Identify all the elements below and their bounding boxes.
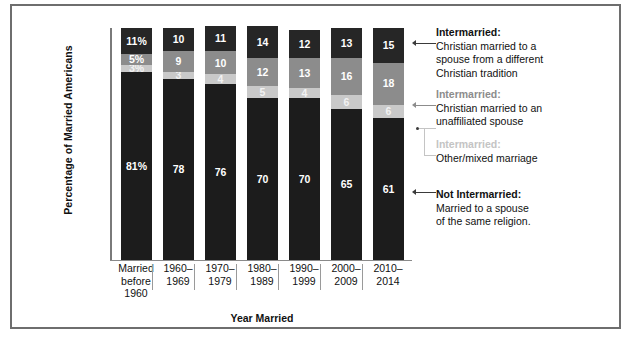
x-axis-line (110, 260, 412, 261)
x-tick-line: 1960 (115, 287, 157, 300)
bar-segment-label: 11 (215, 33, 226, 44)
legend-leader-2 (416, 105, 436, 106)
bar-segment-label: 6 (386, 106, 392, 117)
legend-item-title: Intermarried: (436, 26, 616, 40)
bar-segment-label: 3% (129, 65, 144, 72)
bar-segment-label: 3 (176, 72, 182, 79)
legend-arrow-4 (412, 189, 416, 195)
legend-leader-3d (419, 128, 425, 129)
bar-segment: 14 (247, 26, 278, 58)
legend-arrow-2 (412, 102, 416, 108)
legend-item-3: Intermarried:Other/mixed marriage (436, 138, 616, 165)
bar-segment-label: 81% (126, 161, 147, 172)
bar-segment-label: 65 (341, 179, 353, 190)
x-tick-7: 2010–2014 (367, 262, 409, 287)
bar-segment: 12 (247, 58, 278, 86)
x-tick-2: 1960–1969 (157, 262, 199, 287)
bar-2: 109378 (163, 28, 194, 260)
legend-item-line: Christian married to an (436, 102, 616, 116)
bar-segment: 15 (373, 28, 404, 63)
x-tick-line: 1970– (199, 262, 241, 275)
bar-segment-label: 61 (383, 184, 395, 195)
legend-item-line: unaffiliated spouse (436, 115, 616, 129)
legend-leader-1 (416, 43, 436, 44)
x-tick-separator (278, 264, 279, 290)
bar-segment-label: 15 (383, 40, 395, 51)
x-tick-1: Marriedbefore1960 (115, 262, 157, 300)
bar-segment: 61 (373, 118, 404, 260)
bar-4: 1412570 (247, 26, 278, 260)
bar-segment-label: 14 (257, 37, 269, 48)
x-tick-line: 1999 (283, 275, 325, 288)
plot-area: 11%5%3%81%109378111047614125701213470131… (110, 28, 410, 260)
legend-leader-3c (424, 155, 436, 156)
bar-segment: 70 (247, 98, 278, 260)
x-tick-separator (320, 264, 321, 290)
legend-leader-3a (424, 128, 436, 129)
bar-segment-label: 78 (173, 164, 185, 175)
bar-segment: 16 (331, 58, 362, 95)
bar-segment: 11% (121, 28, 152, 54)
legend-item-4: Not Intermarried:Married to a spouseof t… (436, 188, 616, 229)
bar-segment: 4 (205, 74, 236, 83)
x-tick-separator (152, 264, 153, 290)
bar-segment: 3% (121, 65, 152, 72)
bar-segment-label: 13 (299, 68, 311, 79)
x-tick-line: 2000– (325, 262, 367, 275)
x-tick-line: 1990– (283, 262, 325, 275)
legend-leader-4 (416, 192, 436, 193)
bar-6: 1316665 (331, 28, 362, 260)
x-tick-line: 2010– (367, 262, 409, 275)
bar-segment: 9 (163, 51, 194, 72)
x-tick-line: Married (115, 262, 157, 275)
x-tick-separator (194, 264, 195, 290)
bar-segment-label: 10 (215, 58, 227, 69)
x-tick-separator (236, 264, 237, 290)
bar-segment: 12 (289, 30, 320, 58)
bar-segment: 10 (163, 28, 194, 51)
bar-3: 1110476 (205, 26, 236, 260)
bar-1: 11%5%3%81% (121, 28, 152, 260)
y-axis-title: Percentage of Married Americans (62, 30, 74, 230)
bar-segment-label: 70 (299, 174, 311, 185)
x-tick-line: 1980– (241, 262, 283, 275)
bar-segment: 13 (289, 58, 320, 88)
bar-5: 1213470 (289, 30, 320, 260)
legend-item-line: Married to a spouse (436, 202, 616, 216)
bar-segment: 70 (289, 98, 320, 260)
chart-figure: Percentage of Married Americans 11%5%3%8… (10, 4, 621, 329)
bar-segment: 78 (163, 79, 194, 260)
bar-segment: 5 (247, 86, 278, 98)
legend-item-line: spouse from a different (436, 53, 616, 67)
bar-segment-label: 4 (302, 88, 308, 97)
bar-segment: 6 (373, 105, 404, 119)
bar-7: 1518661 (373, 28, 404, 260)
bar-segment-label: 76 (215, 167, 227, 178)
legend-item-line: Other/mixed marriage (436, 152, 616, 166)
bar-segment-label: 11% (126, 36, 146, 47)
x-tick-labels: Marriedbefore19601960–19691970–19791980–… (110, 262, 414, 308)
x-tick-6: 2000–2009 (325, 262, 367, 287)
legend-item-1: Intermarried:Christian married to aspous… (436, 26, 616, 80)
bar-segment: 81% (121, 72, 152, 260)
bar-segment: 76 (205, 84, 236, 260)
legend-leader-3b (424, 128, 425, 156)
legend-item-line: of the same religion. (436, 215, 616, 229)
x-tick-line: 1969 (157, 275, 199, 288)
legend-item-2: Intermarried:Christian married to anunaf… (436, 88, 616, 129)
bar-segment: 18 (373, 63, 404, 105)
x-tick-line: 2009 (325, 275, 367, 288)
x-tick-line: before (115, 275, 157, 288)
y-axis-line (110, 28, 112, 260)
x-tick-line: 1979 (199, 275, 241, 288)
bar-segment: 3 (163, 72, 194, 79)
bar-segment: 65 (331, 109, 362, 260)
bar-segment-label: 6 (344, 97, 350, 108)
bar-segment-label: 16 (341, 71, 353, 82)
legend-item-title: Not Intermarried: (436, 188, 616, 202)
x-tick-4: 1980–1989 (241, 262, 283, 287)
bar-segment: 10 (205, 51, 236, 74)
bar-segment: 4 (289, 88, 320, 97)
legend-item-line: Christian married to a (436, 40, 616, 54)
bar-segment-label: 13 (341, 38, 353, 49)
